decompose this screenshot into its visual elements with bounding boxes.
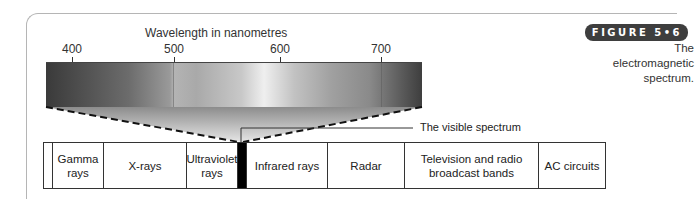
- caption-line-1: FIGURE 5•6The: [568, 24, 696, 56]
- band-gamma-rays: Gamma rays: [53, 143, 104, 188]
- band-radar: Radar: [328, 143, 405, 188]
- band-infrared-rays: Infrared rays: [246, 143, 328, 188]
- spectrum-band-table: Gamma rays X-rays Ultraviolet rays Infra…: [43, 142, 606, 189]
- band-unlabeled: [44, 143, 53, 188]
- band-ultraviolet-rays: Ultraviolet rays: [187, 143, 238, 188]
- caption-rest: electromagnetic spectrum.: [568, 56, 696, 86]
- caption-start: The: [674, 42, 694, 54]
- band-ac-circuits: AC circuits: [539, 143, 606, 188]
- funnel-shade: [46, 107, 422, 142]
- band-visible-light: [238, 143, 246, 188]
- figure-badge: FIGURE 5•6: [585, 24, 688, 41]
- visible-spectrum-label: The visible spectrum: [420, 121, 521, 133]
- figure-caption: FIGURE 5•6The electromagnetic spectrum.: [568, 24, 696, 86]
- band-tv-radio: Television and radio broadcast bands: [405, 143, 539, 188]
- band-x-rays: X-rays: [104, 143, 187, 188]
